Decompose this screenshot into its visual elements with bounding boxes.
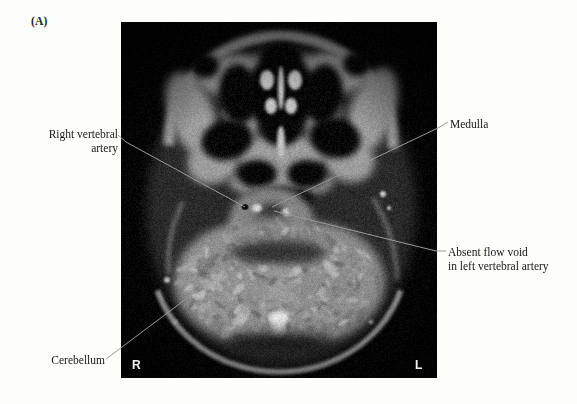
- orientation-marker-left: L: [415, 358, 422, 372]
- label-cerebellum: Cerebellum: [8, 354, 105, 368]
- label-medulla: Medulla: [450, 118, 488, 132]
- orientation-marker-right: R: [132, 358, 141, 372]
- mri-canvas: [121, 22, 437, 378]
- figure-page: (A) R L Right vertebral artery Cerebellu…: [0, 0, 577, 404]
- panel-letter: (A): [31, 15, 48, 27]
- label-right-vertebral-artery: Right vertebral artery: [8, 128, 118, 155]
- label-absent-flow-void: Absent flow void in left vertebral arter…: [448, 246, 549, 273]
- mri-image: R L: [121, 22, 437, 378]
